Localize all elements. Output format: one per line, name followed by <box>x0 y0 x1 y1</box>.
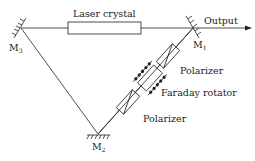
faraday-rotator-label: Faraday rotator <box>161 87 237 98</box>
polarizer-bottom <box>116 90 139 115</box>
laser-crystal-label: Laser crystal <box>73 8 136 19</box>
mirror-m2 <box>87 135 110 139</box>
mirror-m1 <box>186 16 201 38</box>
laser-crystal <box>68 22 141 34</box>
output-arrow-icon <box>245 26 252 31</box>
polarizer-bottom-label: Polarizer <box>143 113 187 124</box>
ring-laser-diagram: Laser crystal M3 M1 Output M2 <box>0 0 255 161</box>
m2-label: M2 <box>92 141 106 153</box>
m3-label: M3 <box>9 42 23 54</box>
output-label: Output <box>204 15 238 26</box>
beam-m3-m2 <box>21 28 98 134</box>
polarizer-top-label: Polarizer <box>180 65 224 76</box>
beam-paths <box>21 28 250 134</box>
m1-label: M1 <box>193 39 207 51</box>
